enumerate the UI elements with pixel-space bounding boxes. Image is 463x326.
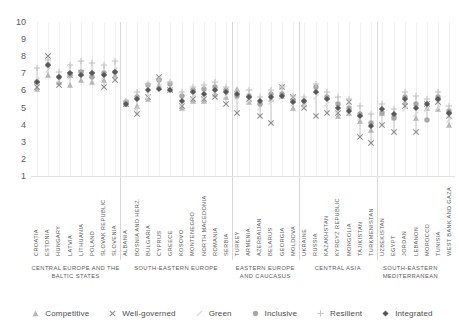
- country-column: [87, 22, 98, 176]
- x-axis-tick-label: CYPRUS: [156, 231, 162, 256]
- chart-legend: CompetitiveWell-governedGreenInclusiveRe…: [0, 303, 463, 323]
- data-point-cross: [133, 111, 140, 118]
- country-column: [143, 22, 154, 176]
- data-point-plus: [279, 84, 286, 91]
- y-axis: 12345678910: [0, 14, 30, 184]
- group-label: SOUTH-EASTERN MEDITERRANEAN: [377, 264, 444, 280]
- x-axis-tick-label: NORTH MACEDONIA: [201, 196, 207, 256]
- data-point-cross: [412, 128, 419, 135]
- x-axis-tick-label: TAJIKISTAN: [357, 222, 363, 256]
- x-axis-tick-label: GEORGIA: [279, 227, 285, 256]
- x-axis-tick-label: CROATIA: [33, 229, 39, 256]
- y-axis-tick-label: 10: [2, 18, 26, 27]
- country-column: [53, 22, 64, 176]
- data-point-plus: [312, 80, 319, 87]
- legend-label: Integrated: [395, 309, 433, 318]
- country-column: [187, 22, 198, 176]
- data-point-diamond: [44, 61, 51, 68]
- dot-plot-chart: 12345678910 CROATIAESTONIAHUNGARYLATVIAL…: [0, 0, 463, 326]
- data-point-cross: [368, 140, 375, 147]
- data-point-diamond: [223, 89, 230, 96]
- data-point-diamond: [55, 73, 62, 80]
- country-column: [243, 22, 254, 176]
- data-point-diamond: [245, 94, 252, 101]
- country-column: [64, 22, 75, 176]
- data-point-circle: [424, 116, 431, 123]
- data-point-diamond: [100, 72, 107, 79]
- data-point-diamond: [368, 123, 375, 130]
- x-axis-tick-label: LITHUANIA: [78, 224, 84, 256]
- data-point-diamond: [212, 87, 219, 94]
- legend-item-competitive[interactable]: Competitive: [30, 308, 89, 319]
- data-point-diamond: [67, 70, 74, 77]
- data-point-cross: [390, 128, 397, 135]
- country-column: [310, 22, 321, 176]
- x-axis-tick-label: RUSSIA: [312, 233, 318, 256]
- data-point-plus: [89, 60, 96, 67]
- x-axis-tick-label: TUNISIA: [435, 231, 441, 256]
- country-column: [254, 22, 265, 176]
- data-point-plus: [178, 89, 185, 96]
- y-axis-tick-label: 7: [2, 69, 26, 78]
- x-axis-tick-label: TURKEY: [234, 231, 240, 256]
- country-column: [410, 22, 421, 176]
- country-column: [31, 22, 42, 176]
- data-point-diamond: [122, 101, 129, 108]
- data-point-diamond: [256, 97, 263, 104]
- country-column: [321, 22, 332, 176]
- legend-item-inclusive[interactable]: Inclusive: [250, 308, 297, 319]
- x-axis-tick-label: BOSNIA AND HERZ.: [134, 198, 140, 256]
- country-column: [388, 22, 399, 176]
- data-point-diamond: [78, 72, 85, 79]
- country-column: [332, 22, 343, 176]
- country-column: [198, 22, 209, 176]
- data-point-slash: [401, 106, 408, 113]
- data-point-diamond: [33, 78, 40, 85]
- data-point-cross: [312, 113, 319, 120]
- legend-marker-plus-icon: [315, 308, 326, 319]
- data-point-plus: [345, 96, 352, 103]
- data-point-diamond: [156, 85, 163, 92]
- group-label: EASTERN EUROPE AND CAUCASUS: [232, 264, 299, 280]
- x-axis-tick-label: KAZAKHSTAN: [323, 216, 329, 256]
- data-point-cross: [267, 119, 274, 126]
- x-axis-tick-label: BULGARIA: [145, 225, 151, 256]
- data-point-diamond: [401, 96, 408, 103]
- country-column: [444, 22, 455, 176]
- data-point-slash: [412, 111, 419, 118]
- data-point-triangle: [67, 82, 74, 89]
- group-label: CENTRAL EUROPE AND THE BALTIC STATES: [31, 264, 120, 280]
- data-point-diamond: [301, 97, 308, 104]
- country-column: [98, 22, 109, 176]
- x-axis-tick-label: UKRAINE: [301, 229, 307, 256]
- country-column: [210, 22, 221, 176]
- legend-item-well-governed[interactable]: Well-governed: [107, 308, 175, 319]
- data-point-diamond: [200, 90, 207, 97]
- data-point-cross: [256, 113, 263, 120]
- x-axis-tick-label: BELARUS: [267, 227, 273, 256]
- data-point-diamond: [390, 111, 397, 118]
- legend-item-green[interactable]: Green: [194, 308, 232, 319]
- x-axis-tick-label: WEST BANK AND GAZA: [446, 187, 452, 256]
- x-axis-tick-label: JORDAN: [401, 231, 407, 256]
- group-label: SOUTH-EASTERN EUROPE: [120, 264, 232, 272]
- data-point-diamond: [435, 96, 442, 103]
- legend-item-resilient[interactable]: Resilient: [315, 308, 362, 319]
- x-axis-tick-label: MOROCCO: [424, 224, 430, 256]
- x-axis-tick-label: KYRGYZ REPUBLIC: [334, 198, 340, 256]
- data-point-plus: [357, 102, 364, 109]
- data-point-cross: [111, 77, 118, 84]
- legend-item-integrated[interactable]: Integrated: [380, 308, 433, 319]
- data-point-diamond: [446, 109, 453, 116]
- data-point-plus: [78, 58, 85, 65]
- data-point-diamond: [234, 90, 241, 97]
- data-point-plus: [33, 65, 40, 72]
- data-point-plus: [368, 111, 375, 118]
- legend-label: Green: [209, 309, 232, 318]
- x-axis-tick-label: MONTENEGRO: [189, 212, 195, 256]
- x-axis-tick-label: EGYPT: [390, 235, 396, 256]
- country-column: [176, 22, 187, 176]
- data-point-diamond: [279, 92, 286, 99]
- country-column: [288, 22, 299, 176]
- x-axis-tick-label: LATVIA: [67, 235, 73, 256]
